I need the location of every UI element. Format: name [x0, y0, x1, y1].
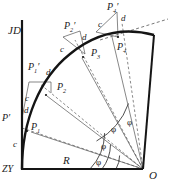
- angle-arc-4: [97, 104, 129, 142]
- label-phi-3: φ: [111, 125, 116, 134]
- label-p-prime-1: P1′: [28, 62, 39, 74]
- point-marker-p4: [117, 36, 119, 38]
- label-o: O: [149, 170, 157, 181]
- radial-to-p3: [82, 58, 143, 169]
- radial-lines-group: [31, 37, 143, 169]
- curve-layout-diagram: JD ZY O R P1 P2 P3 P4 P′ P1′ P2′ P4′ c c…: [0, 0, 170, 189]
- tangent-line: [100, 19, 168, 40]
- label-p3: P3: [91, 48, 100, 60]
- label-r: R: [63, 155, 70, 166]
- label-jd: JD: [8, 25, 21, 36]
- circular-curve: [22, 32, 154, 169]
- label-d-3: d: [121, 14, 126, 23]
- label-d-2: d: [82, 33, 87, 42]
- label-phi-2: φ: [101, 142, 106, 151]
- angle-arc-1: [116, 156, 120, 170]
- label-zy: ZY: [2, 164, 13, 174]
- label-c-3: c: [98, 20, 102, 29]
- label-c-2: c: [60, 45, 64, 54]
- label-p-prime-2: P2′: [64, 21, 75, 33]
- label-p-prime-4: P4′: [107, 2, 118, 14]
- label-p4: P4: [117, 42, 126, 54]
- label-p2: P2: [57, 82, 66, 94]
- label-p-prime-0: P′: [2, 113, 10, 123]
- label-d-1: d: [46, 68, 51, 77]
- label-p1: P1: [31, 122, 40, 134]
- radius-line-to-curve-end: [143, 35, 154, 169]
- label-c-0: c: [13, 140, 17, 149]
- label-phi-4: φ: [127, 118, 132, 127]
- point-marker-p3: [82, 56, 84, 58]
- label-d-0: d: [24, 106, 29, 115]
- label-c-1: c: [25, 94, 29, 103]
- label-phi-1: φ: [96, 158, 101, 167]
- point-marker-p2: [45, 94, 47, 96]
- curve-point-markers: [26, 36, 119, 132]
- point-marker-p1: [26, 130, 28, 132]
